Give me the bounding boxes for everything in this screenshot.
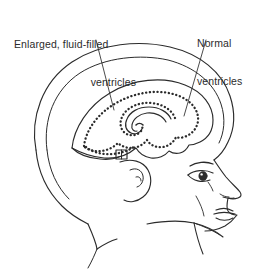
label-normal-ventricles: Normal ventricles — [197, 12, 261, 112]
eyebrow — [190, 162, 213, 166]
label-normal-line1: Normal — [197, 37, 261, 50]
eye-highlight — [200, 173, 202, 175]
chest-line — [194, 223, 203, 254]
lips-lower — [216, 218, 233, 220]
label-enlarged-ventricles: Enlarged, fluid-filled ventricles — [14, 13, 136, 113]
label-enlarged-line1: Enlarged, fluid-filled — [14, 38, 136, 51]
normal-ventricle-inner-loop — [132, 113, 166, 131]
shoulder-right — [147, 221, 223, 237]
ear-tragus — [136, 177, 141, 181]
skull-outer-lower-left — [36, 150, 88, 224]
ear-inner-fold — [130, 169, 143, 187]
lips-line — [214, 213, 235, 215]
cheek-line — [196, 196, 204, 216]
label-normal-line2: ventricles — [197, 75, 261, 88]
eye-pupil — [199, 171, 207, 180]
shoulder-left — [97, 239, 117, 249]
eye-crease — [208, 182, 213, 191]
neck-front-fold — [88, 249, 97, 268]
normal-ventricle-core — [136, 124, 143, 126]
lips-upper — [216, 209, 233, 211]
ear — [120, 160, 151, 201]
hydrocephalus-diagram: Enlarged, fluid-filled ventricles Normal… — [0, 0, 266, 280]
label-enlarged-line2: ventricles — [14, 76, 136, 89]
nose-base-shadow — [220, 194, 229, 197]
neck-back — [88, 224, 97, 249]
